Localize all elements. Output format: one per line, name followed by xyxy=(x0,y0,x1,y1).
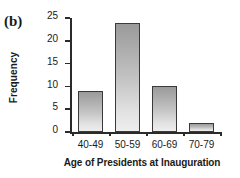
x-axis-title: Age of Presidents at Inauguration xyxy=(44,157,240,168)
y-tick-label: 10 xyxy=(47,79,58,91)
bar xyxy=(78,91,103,132)
x-category-label: 70-79 xyxy=(180,139,224,151)
panel-label: (b) xyxy=(4,14,22,29)
y-tick: 15 xyxy=(65,63,70,65)
y-tick-label: 5 xyxy=(52,101,58,113)
bar xyxy=(189,123,214,132)
y-tick-label: 0 xyxy=(52,124,58,136)
x-tick xyxy=(146,132,148,136)
y-tick: 0 xyxy=(65,131,70,133)
y-axis-line xyxy=(70,18,72,132)
histogram-figure: (b) Frequency 0510152025 40-4950-5960-69… xyxy=(0,0,240,178)
plot-area: 0510152025 40-4950-5960-6970-79 xyxy=(70,18,218,132)
x-tick xyxy=(72,132,74,136)
y-tick-label: 15 xyxy=(47,56,58,68)
bar xyxy=(115,23,140,132)
y-axis-title: Frequency xyxy=(8,42,19,114)
y-tick: 25 xyxy=(65,17,70,19)
y-tick-label: 20 xyxy=(47,33,58,45)
bar xyxy=(152,86,177,132)
x-tick xyxy=(109,132,111,136)
x-tick xyxy=(220,132,222,136)
x-axis-line xyxy=(70,132,220,134)
y-tick: 10 xyxy=(65,86,70,88)
x-tick xyxy=(183,132,185,136)
y-tick-label: 25 xyxy=(47,10,58,22)
y-tick: 20 xyxy=(65,40,70,42)
y-tick: 5 xyxy=(65,108,70,110)
